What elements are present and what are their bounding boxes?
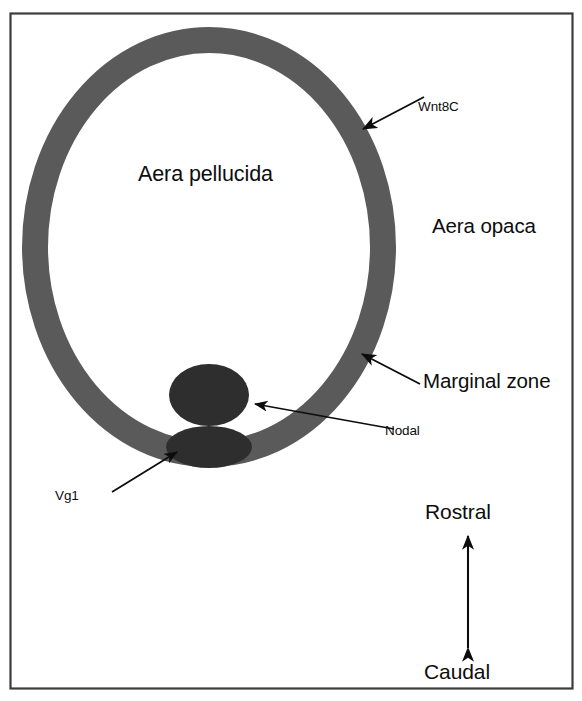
marginal-zone-leader-line (362, 354, 420, 384)
figure-canvas: Aera pellucida Aera opaca Wnt8C Marginal… (0, 0, 582, 701)
label-aera-pellucida: Aera pellucida (138, 164, 273, 186)
figure-frame (11, 14, 573, 689)
label-vg1: Vg1 (55, 489, 79, 503)
wnt8c-leader-line (363, 97, 424, 129)
nodal-domain (169, 364, 249, 426)
label-marginal-zone: Marginal zone (423, 371, 550, 392)
label-wnt8c: Wnt8C (418, 100, 459, 114)
vg1-domain (166, 426, 252, 468)
vg1-leader-line (112, 452, 177, 492)
label-nodal: Nodal (385, 424, 420, 438)
label-caudal: Caudal (424, 661, 490, 682)
diagram-vector-layer (0, 0, 582, 701)
label-rostral: Rostral (425, 501, 491, 522)
label-aera-opaca: Aera opaca (432, 216, 536, 237)
